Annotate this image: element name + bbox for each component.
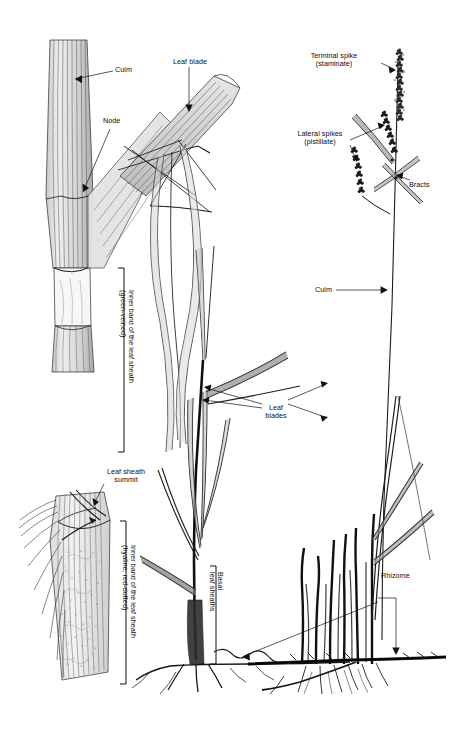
lateral-spike-lower bbox=[351, 147, 365, 193]
illustration-plate: Culm Node Leaf blade Inner band of the l… bbox=[0, 0, 450, 743]
label-terminal-spike: Terminal spike (staminate) bbox=[303, 52, 365, 69]
label-node: Node bbox=[103, 117, 120, 125]
label-rhizome: Rhizome bbox=[381, 572, 410, 580]
rhizome-clump-panel bbox=[242, 396, 446, 694]
label-culm-habit: Culm bbox=[315, 286, 332, 294]
label-leaf-blade: Leaf blade bbox=[164, 58, 216, 66]
label-culm-detail: Culm bbox=[115, 66, 132, 74]
label-inner-band-green-veined: Inner band of the leaf sheath (green-vei… bbox=[118, 290, 135, 383]
terminal-spike-shape bbox=[396, 49, 404, 121]
label-leaf-blades: Leaf blades bbox=[262, 404, 290, 421]
leaf-sheath-detail-panel bbox=[19, 484, 126, 684]
label-basal-leaf-sheaths: Basal leaf sheaths bbox=[207, 572, 224, 611]
botanical-drawing bbox=[0, 0, 450, 743]
label-inner-band-hyaline: Inner band of the leaf sheath (hyaline, … bbox=[120, 545, 137, 638]
leader-terminal-spike bbox=[381, 63, 394, 69]
label-bracts: Bracts bbox=[409, 181, 430, 189]
label-leaf-sheath-summit: Leaf sheath summit bbox=[95, 468, 157, 485]
label-lateral-spikes: Lateral spikes (pistillate) bbox=[290, 130, 350, 147]
